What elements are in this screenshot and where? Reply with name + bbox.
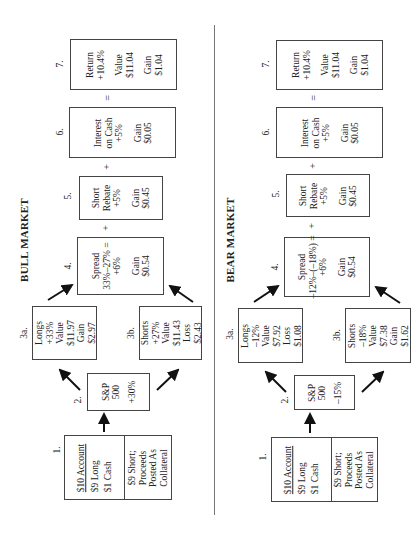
bull-step4-spread-box: Spread 33%–27% = +6% Gain $0.54 bbox=[77, 237, 164, 295]
interest-rate: +5% bbox=[113, 117, 124, 148]
gain-label: Gain bbox=[339, 117, 350, 148]
gain-label: Gain bbox=[348, 50, 359, 80]
account-heading: $10 Account bbox=[283, 445, 294, 493]
short-note-4: Collateral bbox=[365, 451, 376, 489]
loss-amount: $2.43 bbox=[192, 320, 203, 346]
value-label: Value bbox=[113, 50, 124, 80]
bull-step3b-label: 3b. bbox=[126, 327, 136, 339]
spread-label: Spread bbox=[90, 242, 101, 289]
short-label: Short bbox=[91, 185, 102, 211]
shorts-label: Shorts bbox=[347, 323, 358, 347]
interest-label-2: on Cash bbox=[103, 117, 114, 148]
bull-plus-sign-1: + bbox=[101, 164, 112, 170]
rebate-rate: +5% bbox=[112, 185, 123, 211]
rebate-label: Rebate bbox=[308, 182, 319, 208]
cash-amount: $1 Cash bbox=[310, 445, 321, 493]
bear-plus-sign-2: + bbox=[306, 223, 317, 229]
bear-step4-label: 4. bbox=[270, 263, 280, 270]
bull-plus-sign-2: + bbox=[100, 225, 111, 231]
value-amount: $11.43 bbox=[171, 320, 182, 346]
longs-change: +33% bbox=[44, 320, 55, 346]
bull-step1-account-box: $10 Account $9 Long $1 Cash $9 Short; Pr… bbox=[64, 435, 172, 500]
spread-result: +6% bbox=[111, 242, 122, 289]
return-value: +10.4% bbox=[301, 50, 312, 80]
bear-step5-label: 5. bbox=[271, 190, 281, 197]
value-label: Value bbox=[260, 324, 271, 348]
gain-amount: $0.05 bbox=[349, 117, 360, 148]
gain-amount: $0.54 bbox=[347, 235, 358, 298]
return-label: Return bbox=[290, 50, 301, 80]
gain-amount: $0.05 bbox=[142, 117, 153, 148]
gain-amount: $1.62 bbox=[399, 323, 410, 347]
gain-amount: $0.54 bbox=[140, 242, 151, 289]
bear-step1-label: 1. bbox=[258, 453, 268, 460]
shorts-label: Shorts bbox=[139, 320, 150, 346]
short-note-3: Posted As bbox=[148, 449, 159, 487]
value-amount: $7.92 bbox=[271, 324, 282, 348]
bear-equals-sign: = bbox=[308, 95, 319, 101]
bull-step7-label: 7. bbox=[55, 60, 65, 67]
bull-step7-return-box: Return +10.4% Value $11.04 Gain $1.04 bbox=[70, 39, 177, 90]
bull-step3a-label: 3a. bbox=[19, 327, 29, 338]
value-label: Value bbox=[160, 320, 171, 346]
bear-step6-label: 6. bbox=[261, 128, 271, 135]
interest-label-2: on Cash bbox=[310, 117, 321, 148]
short-note: $9 Short; bbox=[127, 449, 138, 487]
loss-label: Loss bbox=[281, 324, 292, 348]
value-amount: $11.04 bbox=[124, 50, 135, 80]
bull-step6-interest-box: Interest on Cash +5% Gain $0.05 bbox=[69, 107, 176, 158]
bear-step7-return-box: Return +10.4% Value $11.04 Gain $1.04 bbox=[276, 40, 383, 90]
bear-step7-label: 7. bbox=[261, 60, 271, 67]
bull-step4-label: 4. bbox=[63, 262, 73, 269]
gain-amount: $0.45 bbox=[141, 185, 152, 211]
bear-step3b-label: 3b. bbox=[332, 329, 342, 341]
bull-step2-sp500-box: S&P 500 +30% bbox=[87, 373, 150, 411]
rebate-label: Rebate bbox=[101, 185, 112, 211]
return-label: Return bbox=[84, 50, 95, 80]
gain-label: Gain bbox=[75, 320, 86, 346]
bear-market-title: BEAR MARKET bbox=[224, 197, 236, 282]
gain-label: Gain bbox=[132, 117, 143, 148]
value-amount: $11.04 bbox=[330, 50, 341, 80]
index-number: 500 bbox=[317, 381, 327, 403]
account-heading: $10 Account bbox=[76, 443, 87, 491]
gain-label: Gain bbox=[130, 242, 141, 289]
short-note-2: Proceeds bbox=[344, 451, 355, 489]
shorts-change: +27% bbox=[150, 320, 161, 346]
index-name: S&P bbox=[307, 381, 317, 403]
spread-label: Spread bbox=[297, 235, 308, 298]
gain-label: Gain bbox=[389, 323, 400, 347]
index-change: +30% bbox=[127, 381, 137, 404]
interest-rate: +5% bbox=[320, 117, 331, 148]
market-divider-line bbox=[214, 25, 215, 515]
value-amount: $11.97 bbox=[65, 320, 76, 346]
bull-step5-short-rebate-box: Short Rebate +5% Gain $0.45 bbox=[79, 176, 163, 220]
return-value: +10.4% bbox=[95, 50, 106, 80]
loss-label: Loss bbox=[181, 320, 192, 346]
bear-step2-sp500-box: S&P 500 –15% bbox=[294, 375, 355, 410]
bear-step2-label: 2. bbox=[280, 396, 290, 403]
bear-step6-interest-box: Interest on Cash +5% Gain $0.05 bbox=[276, 107, 383, 158]
shorts-change: –18% bbox=[357, 323, 368, 347]
long-amount: $9 Long bbox=[296, 445, 307, 493]
spread-formula: –12%–(–18%) = bbox=[307, 235, 318, 298]
longs-label: Longs bbox=[239, 324, 250, 348]
gain-amount: $0.45 bbox=[348, 182, 359, 208]
bear-step3a-label: 3a. bbox=[225, 328, 235, 339]
rebate-rate: +5% bbox=[319, 182, 330, 208]
bear-step4-spread-box: Spread –12%–(–18%) = +6% Gain $0.54 bbox=[284, 237, 370, 297]
gain-label: Gain bbox=[337, 182, 348, 208]
bull-step6-label: 6. bbox=[55, 128, 65, 135]
index-change: –15% bbox=[333, 381, 343, 403]
short-note: $9 Short; bbox=[333, 451, 344, 489]
bear-step3b-shorts-box: Shorts –18% Value $7.38 Gain $1.62 bbox=[345, 308, 411, 363]
value-label: Value bbox=[368, 323, 379, 347]
spread-formula: 33%–27% = bbox=[101, 242, 112, 289]
bear-step1-account-box: $10 Account $9 Long $1 Cash $9 Short; Pr… bbox=[271, 437, 378, 502]
index-name: S&P bbox=[101, 381, 111, 404]
short-note-3: Posted As bbox=[354, 451, 365, 489]
longs-change: –12% bbox=[250, 324, 261, 348]
bull-step5-label: 5. bbox=[63, 192, 73, 199]
value-amount: $7.38 bbox=[378, 323, 389, 347]
index-number: 500 bbox=[111, 381, 121, 404]
